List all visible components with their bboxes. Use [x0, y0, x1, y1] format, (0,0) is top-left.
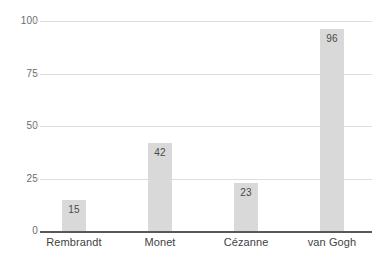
plot-area: 15 42 23 96 [40, 21, 372, 231]
x-label-van-gogh: van Gogh [272, 236, 386, 248]
bar-value-rembrandt: 15 [62, 205, 86, 215]
bar-monet[interactable]: 42 [148, 143, 172, 231]
bar-chart: 100 75 50 25 0 15 42 23 96 Rembrandt [0, 0, 386, 266]
y-tick-mark-25 [33, 178, 39, 179]
gridline-100 [40, 21, 372, 22]
y-tick-label-0: 0 [0, 226, 38, 236]
bar-value-monet: 42 [148, 148, 172, 158]
bar-van-gogh[interactable]: 96 [320, 29, 344, 231]
y-tick-mark-100 [33, 21, 39, 22]
y-tick-mark-50 [33, 126, 39, 127]
x-axis-line [40, 231, 372, 233]
bar-value-cezanne: 23 [234, 188, 258, 198]
bar-rembrandt[interactable]: 15 [62, 200, 86, 232]
bar-cezanne[interactable]: 23 [234, 183, 258, 231]
bar-value-van-gogh: 96 [320, 34, 344, 44]
y-tick-mark-75 [33, 73, 39, 74]
